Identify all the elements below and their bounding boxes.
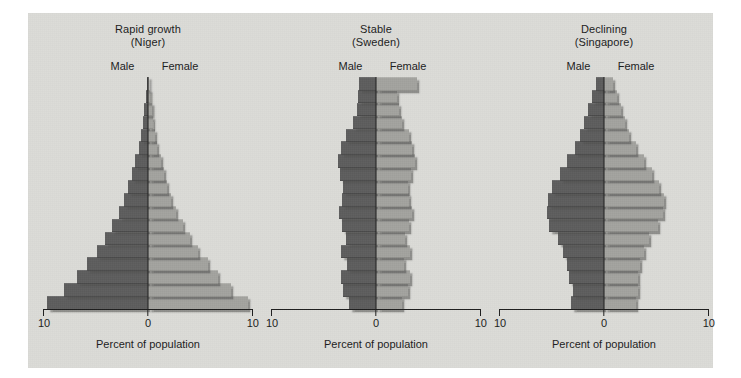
bar-male	[341, 141, 376, 155]
bar-female	[148, 232, 190, 246]
legend-male-label: Male	[566, 60, 590, 72]
bar-female	[604, 141, 636, 155]
bar-male	[135, 154, 148, 168]
bar-male	[346, 232, 376, 246]
center-axis-line	[148, 77, 149, 309]
axis-tick-right	[252, 309, 253, 316]
bar-male	[573, 283, 605, 297]
bar-female	[148, 245, 198, 259]
tick-label-right: 10	[247, 317, 259, 329]
bar-female	[376, 116, 402, 130]
bar-female	[148, 206, 176, 220]
x-axis-title-niger: Percent of population	[34, 338, 262, 350]
population-pyramid-singapore: Declining (Singapore) Male Female 10 0 1…	[490, 13, 718, 368]
bar-female	[604, 77, 613, 91]
bar-male	[343, 283, 376, 297]
bar-female	[376, 193, 409, 207]
center-axis-line	[604, 77, 605, 309]
bar-female	[148, 116, 153, 130]
bar-male	[588, 103, 604, 117]
bar-female	[376, 283, 408, 297]
bar-female	[148, 103, 152, 117]
bar-male	[47, 296, 148, 310]
bar-female	[604, 257, 640, 271]
panel-title-main: Declining	[581, 23, 627, 35]
bar-male	[567, 257, 604, 271]
bar-male	[77, 270, 148, 284]
bar-female	[376, 77, 417, 91]
bar-male	[558, 232, 604, 246]
panel-title-main: Rapid growth	[115, 23, 181, 35]
bar-male	[571, 296, 604, 310]
bar-female	[148, 219, 183, 233]
bar-female	[604, 180, 659, 194]
tick-label-right: 10	[475, 317, 487, 329]
bar-male	[548, 193, 604, 207]
plot-area-niger	[43, 77, 253, 309]
plot-area-sweden	[271, 77, 481, 309]
bar-male	[128, 180, 148, 194]
bar-female	[604, 154, 644, 168]
bar-female	[376, 180, 408, 194]
bar-female	[376, 219, 409, 233]
bar-female	[376, 270, 410, 284]
bar-female	[604, 296, 636, 310]
bar-female	[376, 206, 412, 220]
bar-male	[584, 116, 604, 130]
panel-title-sub: (Sweden)	[262, 36, 490, 49]
bar-female	[604, 219, 658, 233]
bar-male	[64, 283, 148, 297]
legend-female-label: Female	[390, 60, 427, 72]
axis-tick-right	[480, 309, 481, 316]
bar-female	[604, 193, 664, 207]
bar-male	[569, 270, 604, 284]
panel-title-main: Stable	[360, 23, 392, 35]
bar-male	[357, 103, 376, 117]
x-tick-labels-sweden: 10 0 10	[271, 317, 481, 331]
bar-female	[376, 245, 410, 259]
bar-female	[604, 129, 629, 143]
bar-female	[376, 232, 405, 246]
axis-tick-center	[375, 309, 376, 316]
bar-male	[547, 206, 604, 220]
axis-tick-right	[708, 309, 709, 316]
bar-female	[604, 283, 638, 297]
bar-male	[105, 232, 148, 246]
panel-title-sub: (Singapore)	[490, 36, 718, 49]
legend-female-label: Female	[162, 60, 199, 72]
bar-male	[347, 257, 376, 271]
tick-label-left: 10	[266, 317, 278, 329]
bar-male	[359, 77, 376, 91]
bar-male	[338, 154, 376, 168]
tick-label-center: 0	[601, 317, 607, 329]
bar-female	[376, 103, 399, 117]
legend-male-label: Male	[338, 60, 362, 72]
bar-female	[604, 167, 652, 181]
axis-tick-left	[499, 309, 500, 316]
plot-area-singapore	[499, 77, 709, 309]
bar-male	[549, 219, 604, 233]
tick-label-center: 0	[373, 317, 379, 329]
bar-female	[148, 283, 231, 297]
bar-male	[87, 257, 148, 271]
tick-label-left: 10	[38, 317, 50, 329]
bar-male	[560, 167, 604, 181]
bar-female	[148, 167, 164, 181]
tick-label-center: 0	[145, 317, 151, 329]
bar-male	[340, 167, 376, 181]
bar-male	[358, 90, 376, 104]
panel-title-niger: Rapid growth (Niger)	[34, 23, 262, 49]
bar-male	[132, 167, 148, 181]
bar-male	[567, 154, 604, 168]
legend-female-label: Female	[618, 60, 655, 72]
x-axis-title-sweden: Percent of population	[262, 338, 490, 350]
axis-tick-center	[147, 309, 148, 316]
bar-female	[376, 129, 409, 143]
bar-female	[604, 103, 621, 117]
panel-title-sweden: Stable (Sweden)	[262, 23, 490, 49]
bar-female	[376, 90, 397, 104]
bar-female	[148, 270, 218, 284]
x-axis-singapore	[499, 309, 709, 316]
bar-male	[349, 296, 376, 310]
bar-female	[148, 257, 208, 271]
